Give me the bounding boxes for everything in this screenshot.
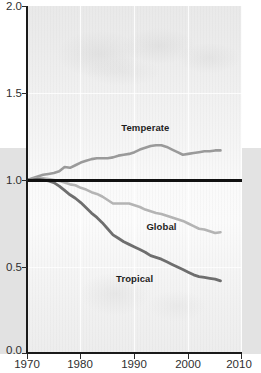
line-global [27, 178, 221, 233]
y-tick-0p5 [22, 267, 27, 268]
x-axis-label-1980: 1980 [60, 358, 100, 370]
y-axis-label-2p0: 2.0 [0, 0, 22, 12]
y-axis-label-1p0: 1.0 [0, 174, 22, 186]
y-axis-label-1p5: 1.5 [0, 87, 22, 99]
y-tick-2p0 [22, 6, 27, 7]
scan-artifact-right [242, 148, 261, 354]
x-axis-label-1970: 1970 [7, 358, 47, 370]
y-tick-1p0 [22, 180, 27, 181]
series-label-temperate: Temperate [121, 122, 169, 133]
x-axis-label-1990: 1990 [114, 358, 154, 370]
line-tropical [27, 179, 221, 281]
x-axis-label-2010: 2010 [219, 358, 259, 370]
y-axis-label-0p5: 0.5 [0, 261, 22, 273]
series-label-global: Global [146, 221, 176, 232]
line-temperate [27, 145, 221, 180]
y-tick-1p5 [22, 93, 27, 94]
chart-figure: 2.0 1.5 1.0 0.5 0.0 1970 1980 1990 2000 … [0, 0, 261, 373]
x-axis-label-2000: 2000 [168, 358, 208, 370]
reference-line-1p0 [27, 179, 242, 182]
series-label-tropical: Tropical [116, 273, 153, 284]
y-axis-label-0p0: 0.0 [0, 344, 22, 356]
